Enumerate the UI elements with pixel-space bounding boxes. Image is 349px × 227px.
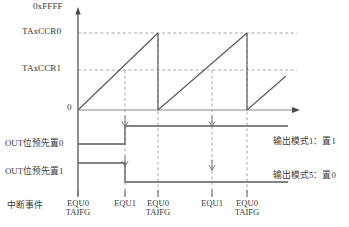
event-label-5-bottom: TAIFG [229, 208, 265, 217]
time-axis-arrowhead [292, 107, 300, 113]
output-mode-5-trace [78, 163, 288, 182]
output-mode-5-waveform [78, 156, 288, 182]
row-label-interrupt-event: 中断事件 [7, 201, 43, 210]
vertical-axis-arrowhead [75, 7, 80, 15]
event-tick-marks [78, 190, 247, 197]
timer-output-mode-diagram: 0xFFFF TAxCCR0 TAxCCR1 0 OUT位预先置0 OUT位预先… [0, 0, 349, 227]
event-label-4-top: EQU1 [194, 199, 230, 208]
output-mode-1-trace [78, 126, 288, 144]
annotation-output-mode-5: 输出模式5：置0 [273, 171, 336, 180]
event-label-5: EQU0 TAIFG [229, 199, 265, 217]
sawtooth-ramp-3 [247, 76, 286, 110]
row-label-out-preset-1: OUT位预先置1 [5, 167, 63, 176]
sawtooth-ramp-2 [158, 33, 247, 110]
axis-label-zero: 0 [67, 103, 72, 113]
output-mode-1-waveform [78, 116, 288, 144]
timer-count-sawtooth [78, 33, 286, 110]
event-label-3: EQU0 TAIFG [140, 199, 176, 217]
axis-label-ccr1: TAxCCR1 [22, 64, 61, 74]
event-label-3-bottom: TAIFG [140, 208, 176, 217]
annotation-output-mode-1: 输出模式1：置1 [273, 137, 336, 146]
event-label-2-top: EQU1 [107, 199, 143, 208]
axis-label-max: 0xFFFF [33, 2, 63, 12]
event-label-4: EQU1 [194, 199, 230, 208]
axis-label-ccr0: TAxCCR0 [22, 27, 61, 37]
event-label-1-bottom: TAIFG [60, 208, 96, 217]
row-label-out-preset-0: OUT位预先置0 [5, 139, 63, 148]
sawtooth-ramp-1 [78, 33, 158, 110]
event-label-1: EQU0 TAIFG [60, 199, 96, 217]
event-label-2: EQU1 [107, 199, 143, 208]
